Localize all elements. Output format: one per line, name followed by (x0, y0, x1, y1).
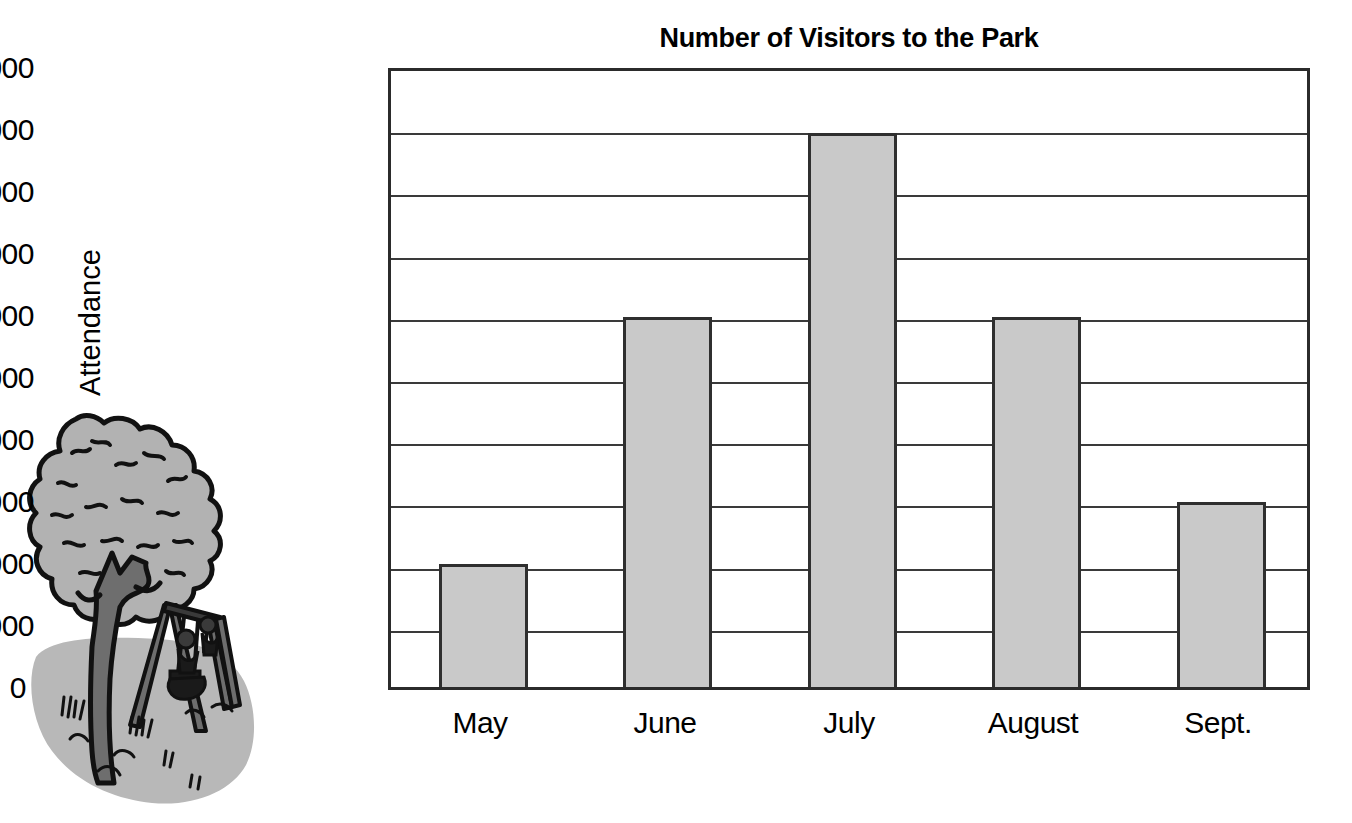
y-axis-title: Attendance (74, 173, 107, 473)
y-tick-label: 14,000 (0, 177, 34, 207)
y-tick-label: 11,000 (0, 363, 34, 393)
y-tick-label: 8,000 (0, 549, 34, 579)
y-tick-label: 15,000 (0, 115, 34, 145)
bar-chart-figure: Number of Visitors to the Park Attendanc… (0, 0, 1352, 823)
y-axis-zero-label: 0 (10, 673, 26, 703)
chart-title: Number of Visitors to the Park (388, 22, 1310, 54)
x-tick-label-sept: Sept. (1126, 706, 1310, 740)
bar-june[interactable] (623, 317, 712, 687)
y-tick-label: 12,000 (0, 301, 34, 331)
bar-sept[interactable] (1177, 502, 1266, 687)
y-tick-label: 10,000 (0, 425, 34, 455)
x-tick-label-august: August (941, 706, 1125, 740)
y-tick-label: 13,000 (0, 239, 34, 269)
plot-area (388, 68, 1310, 690)
x-tick-label-may: May (388, 706, 572, 740)
y-tick-label: 7,000 (0, 611, 34, 641)
bar-august[interactable] (992, 317, 1081, 687)
y-tick-label: 9,000 (0, 487, 34, 517)
x-tick-label-june: June (573, 706, 757, 740)
bar-may[interactable] (439, 564, 528, 687)
x-tick-label-july: July (757, 706, 941, 740)
bar-july[interactable] (808, 133, 897, 687)
y-tick-label: 16,000 (0, 53, 34, 83)
